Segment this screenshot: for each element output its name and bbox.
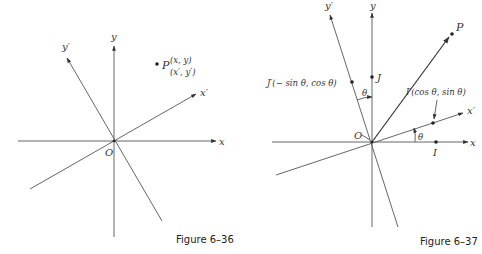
angle-theta-x-label: θ — [418, 132, 423, 142]
origin-dot — [113, 140, 116, 143]
point-j-dot — [370, 75, 374, 79]
x-axis-label: x — [219, 136, 225, 147]
point-j-prime-label: J′(− sin θ, cos θ) — [265, 78, 337, 88]
point-p-dot — [450, 32, 454, 36]
x-prime-axis-label: x′ — [467, 105, 476, 116]
point-p-label: P — [455, 21, 464, 34]
point-i-prime-dot — [431, 121, 435, 125]
figure-caption: Figure 6–36 — [176, 234, 234, 245]
point-p-label: P — [161, 59, 170, 72]
origin-dot — [371, 141, 374, 144]
point-p-prime-coords: (x′, y′) — [170, 67, 196, 77]
origin-label: O — [354, 130, 362, 141]
point-p-xy-coords: (x, y) — [170, 55, 192, 65]
rotation-figures-canvas: x y y′ x′ O P (x, y) (x′, y′) Figure 6–3… — [0, 0, 482, 254]
y-prime-axis-label: y′ — [61, 41, 71, 52]
point-i-dot — [434, 140, 438, 144]
y-prime-axis — [67, 58, 162, 221]
x-prime-axis-label: x′ — [200, 87, 209, 98]
y-prime-axis-label: y′ — [324, 0, 334, 11]
figure-caption: Figure 6–37 — [420, 236, 478, 247]
point-p-dot — [155, 62, 159, 66]
x-prime-axis — [276, 113, 463, 175]
point-i-label: I — [432, 147, 438, 158]
angle-theta-y-label: θ — [362, 88, 367, 98]
angle-arc-x — [414, 128, 415, 142]
figure-6-36: x y y′ x′ O P (x, y) (x′, y′) Figure 6–3… — [18, 31, 234, 245]
x-axis-label: x — [470, 137, 476, 148]
point-i-prime-label: I′(cos θ, sin θ) — [405, 87, 466, 97]
i-prime-leader-arrow — [434, 100, 437, 119]
y-axis-label: y — [110, 31, 117, 42]
origin-label: O — [105, 147, 113, 158]
y-axis-label: y — [369, 0, 376, 11]
figure-6-37: x y y′ x′ P O J J′(− sin θ, cos θ) θ I′(… — [265, 0, 478, 247]
point-j-label: J — [375, 72, 382, 83]
point-j-prime-dot — [350, 80, 354, 84]
